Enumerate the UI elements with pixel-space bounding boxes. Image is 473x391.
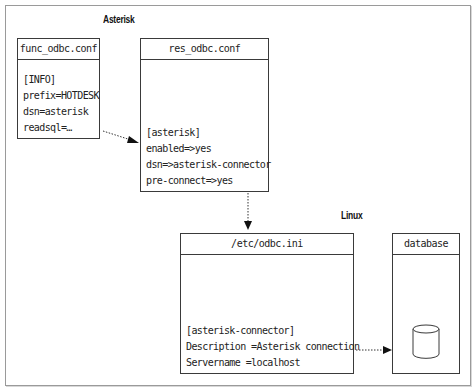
arrow-func-to-res [103,131,139,143]
connection-arrows [0,0,473,391]
arrow-odbc-ini-to-database [356,346,392,354]
arrow-res-to-odbc-ini [244,193,252,230]
